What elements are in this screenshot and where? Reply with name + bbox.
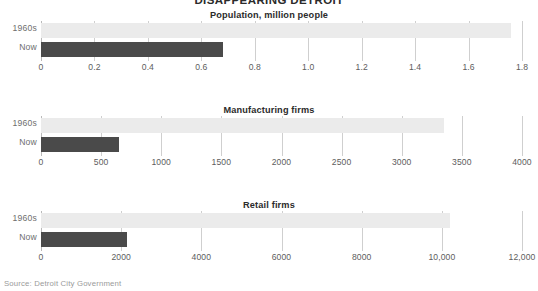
bar-now [41, 42, 223, 57]
x-tick-label: 1.4 [409, 62, 421, 72]
chart-1: Population, million people1960sNow00.20.… [0, 9, 538, 75]
page-title: DISAPPEARING DETROIT [0, 0, 538, 6]
bar-now [41, 137, 119, 152]
chart-title: Population, million people [0, 9, 538, 21]
x-tick-label: 10,000 [428, 252, 455, 262]
bar-row-old: 1960s [41, 23, 522, 38]
gridline [522, 116, 523, 156]
bar-row-now: Now [41, 232, 522, 247]
bar-row-label: 1960s [13, 23, 37, 33]
x-axis-ticks: 05001000150020002500300035004000 [41, 156, 522, 170]
chart-2: Manufacturing firms1960sNow0500100015002… [0, 104, 538, 170]
bar-row-label: Now [19, 232, 37, 242]
x-tick-label: 2000 [272, 157, 292, 167]
x-tick-label: 8000 [352, 252, 372, 262]
bar-old [41, 118, 444, 133]
x-tick-label: 0.4 [142, 62, 154, 72]
bar-old [41, 213, 450, 228]
source-note: Source: Detroit City Government [4, 279, 121, 288]
plot-area: 1960sNow [41, 211, 522, 251]
plot-area: 1960sNow [41, 21, 522, 61]
x-tick-label: 4000 [512, 157, 532, 167]
x-tick-label: 1.0 [302, 62, 314, 72]
chart-title: Retail firms [0, 199, 538, 211]
x-tick-label: 0 [39, 157, 44, 167]
chart-title: Manufacturing firms [0, 104, 538, 116]
x-tick-label: 3500 [452, 157, 472, 167]
x-tick-label: 0.6 [195, 62, 207, 72]
bar-row-label: 1960s [13, 213, 37, 223]
x-tick-label: 6000 [272, 252, 292, 262]
x-tick-label: 1.2 [356, 62, 368, 72]
x-tick-label: 1.8 [516, 62, 528, 72]
x-tick-label: 4000 [192, 252, 212, 262]
bar-row-now: Now [41, 137, 522, 152]
x-tick-label: 0 [39, 62, 44, 72]
plot-area: 1960sNow [41, 116, 522, 156]
chart-3: Retail firms1960sNow0200040006000800010,… [0, 199, 538, 265]
bar-row-now: Now [41, 42, 522, 57]
x-tick-label: 1000 [151, 157, 171, 167]
x-axis-ticks: 0200040006000800010,00012,000 [41, 251, 522, 265]
x-tick-label: 3000 [392, 157, 412, 167]
x-tick-label: 0 [39, 252, 44, 262]
x-tick-label: 2000 [111, 252, 131, 262]
x-tick-label: 2500 [332, 157, 352, 167]
bar-row-old: 1960s [41, 213, 522, 228]
x-tick-label: 1.6 [462, 62, 474, 72]
bar-old [41, 23, 511, 38]
bar-now [41, 232, 127, 247]
gridline [522, 211, 523, 251]
bar-row-old: 1960s [41, 118, 522, 133]
x-tick-label: 0.8 [249, 62, 261, 72]
gridline [522, 21, 523, 61]
x-tick-label: 1500 [212, 157, 232, 167]
bar-row-label: Now [19, 42, 37, 52]
x-tick-label: 0.2 [88, 62, 100, 72]
bar-row-label: Now [19, 137, 37, 147]
x-axis-ticks: 00.20.40.60.81.01.21.41.61.8 [41, 61, 522, 75]
x-tick-label: 12,000 [509, 252, 536, 262]
bar-row-label: 1960s [13, 118, 37, 128]
x-tick-label: 500 [94, 157, 109, 167]
